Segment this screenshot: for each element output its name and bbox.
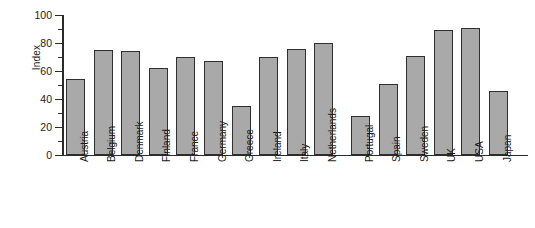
- x-tick-label: France: [190, 131, 200, 162]
- y-tick-major: [55, 43, 62, 44]
- x-tick-label: Greece: [245, 129, 255, 162]
- y-tick-label: 60: [40, 66, 52, 77]
- x-tick-label: Finland: [162, 129, 172, 162]
- bar: [287, 49, 306, 155]
- y-tick-label: 100: [34, 10, 52, 21]
- y-tick-major: [55, 155, 62, 156]
- y-axis-ticks: 020406080100: [0, 15, 62, 155]
- y-tick-label: 80: [40, 38, 52, 49]
- x-tick-label: Austria: [80, 131, 90, 162]
- x-tick-label: Italy: [300, 144, 310, 162]
- y-tick-major: [55, 15, 62, 16]
- x-tick-label: Sweden: [420, 126, 430, 162]
- x-tick-label: Japan: [503, 135, 513, 162]
- y-tick-major: [55, 71, 62, 72]
- bar: [461, 28, 480, 155]
- x-axis-labels: AustriaBelgiumDenmarkFinlandFranceGerman…: [62, 158, 528, 228]
- x-tick-label: USA: [475, 141, 485, 162]
- x-tick-label: Portugal: [365, 125, 375, 162]
- x-tick-label: Ireland: [273, 131, 283, 162]
- y-tick-major: [55, 127, 62, 128]
- x-tick-label: Germany: [218, 121, 228, 162]
- x-tick-label: Spain: [392, 136, 402, 162]
- y-tick-label: 40: [40, 94, 52, 105]
- y-tick-label: 20: [40, 122, 52, 133]
- bar-series: [62, 15, 528, 155]
- x-tick-label: Belgium: [107, 126, 117, 162]
- y-tick-label: 0: [46, 150, 52, 161]
- y-tick-major: [55, 99, 62, 100]
- x-tick-label: Denmark: [135, 121, 145, 162]
- bar: [434, 30, 453, 155]
- x-tick-label: Netherlands: [328, 108, 338, 162]
- bar-chart: Index 020406080100 AustriaBelgiumDenmark…: [0, 0, 535, 228]
- x-tick-label: UK: [447, 148, 457, 162]
